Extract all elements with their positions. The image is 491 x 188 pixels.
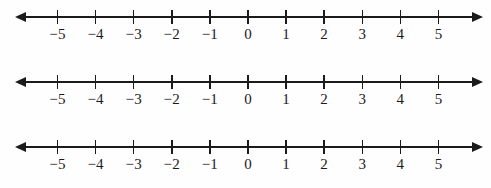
tick-label: 0 bbox=[228, 26, 268, 43]
tick-mark bbox=[171, 140, 173, 154]
tick-label: 3 bbox=[342, 91, 382, 108]
tick-label: 1 bbox=[266, 91, 306, 108]
tick-label: 0 bbox=[228, 156, 268, 173]
number-line-3: −5−4−3−2−1012345 bbox=[0, 130, 491, 188]
tick-mark bbox=[438, 75, 440, 89]
tick-label: 5 bbox=[419, 91, 459, 108]
tick-mark bbox=[285, 75, 287, 89]
tick-mark bbox=[247, 75, 249, 89]
tick-mark bbox=[285, 140, 287, 154]
tick-label: 5 bbox=[419, 26, 459, 43]
axis-line bbox=[26, 146, 472, 148]
tick-label: −5 bbox=[38, 91, 78, 108]
number-line-1: −5−4−3−2−1012345 bbox=[0, 0, 491, 62]
tick-mark bbox=[400, 75, 402, 89]
tick-label: −2 bbox=[152, 26, 192, 43]
tick-label: 4 bbox=[380, 26, 420, 43]
tick-label: −1 bbox=[190, 156, 230, 173]
tick-mark bbox=[57, 10, 59, 24]
tick-mark bbox=[133, 140, 135, 154]
axis-line bbox=[26, 81, 472, 83]
tick-label: 4 bbox=[380, 91, 420, 108]
tick-label: −4 bbox=[76, 91, 116, 108]
tick-label: −1 bbox=[190, 91, 230, 108]
tick-mark bbox=[171, 10, 173, 24]
arrow-left-icon bbox=[15, 142, 26, 152]
tick-mark bbox=[57, 75, 59, 89]
tick-mark bbox=[323, 10, 325, 24]
tick-mark bbox=[209, 140, 211, 154]
arrow-left-icon bbox=[15, 77, 26, 87]
tick-label: 2 bbox=[304, 91, 344, 108]
tick-label: −3 bbox=[114, 26, 154, 43]
tick-label: −1 bbox=[190, 26, 230, 43]
tick-label: −4 bbox=[76, 156, 116, 173]
tick-mark bbox=[362, 140, 364, 154]
tick-label: 3 bbox=[342, 156, 382, 173]
tick-mark bbox=[438, 10, 440, 24]
arrow-left-icon bbox=[15, 12, 26, 22]
tick-label: 0 bbox=[228, 91, 268, 108]
tick-mark bbox=[209, 10, 211, 24]
arrow-right-icon bbox=[472, 12, 483, 22]
tick-label: −4 bbox=[76, 26, 116, 43]
tick-label: 1 bbox=[266, 26, 306, 43]
tick-mark bbox=[95, 75, 97, 89]
tick-mark bbox=[171, 75, 173, 89]
tick-mark bbox=[438, 140, 440, 154]
tick-label: −2 bbox=[152, 91, 192, 108]
axis-line bbox=[26, 16, 472, 18]
tick-label: −5 bbox=[38, 156, 78, 173]
tick-mark bbox=[285, 10, 287, 24]
tick-mark bbox=[247, 140, 249, 154]
tick-mark bbox=[400, 140, 402, 154]
tick-mark bbox=[95, 140, 97, 154]
tick-label: 4 bbox=[380, 156, 420, 173]
tick-mark bbox=[362, 75, 364, 89]
tick-label: −2 bbox=[152, 156, 192, 173]
tick-label: 2 bbox=[304, 156, 344, 173]
tick-mark bbox=[133, 10, 135, 24]
tick-mark bbox=[362, 10, 364, 24]
tick-mark bbox=[323, 75, 325, 89]
tick-mark bbox=[400, 10, 402, 24]
worksheet-canvas: −5−4−3−2−1012345−5−4−3−2−1012345−5−4−3−2… bbox=[0, 0, 491, 188]
tick-mark bbox=[209, 75, 211, 89]
tick-mark bbox=[247, 10, 249, 24]
tick-label: 5 bbox=[419, 156, 459, 173]
tick-label: −3 bbox=[114, 156, 154, 173]
tick-label: 2 bbox=[304, 26, 344, 43]
tick-label: −3 bbox=[114, 91, 154, 108]
tick-mark bbox=[133, 75, 135, 89]
tick-mark bbox=[323, 140, 325, 154]
arrow-right-icon bbox=[472, 77, 483, 87]
number-line-2: −5−4−3−2−1012345 bbox=[0, 65, 491, 127]
tick-mark bbox=[95, 10, 97, 24]
tick-label: 3 bbox=[342, 26, 382, 43]
tick-label: 1 bbox=[266, 156, 306, 173]
tick-mark bbox=[57, 140, 59, 154]
arrow-right-icon bbox=[472, 142, 483, 152]
tick-label: −5 bbox=[38, 26, 78, 43]
